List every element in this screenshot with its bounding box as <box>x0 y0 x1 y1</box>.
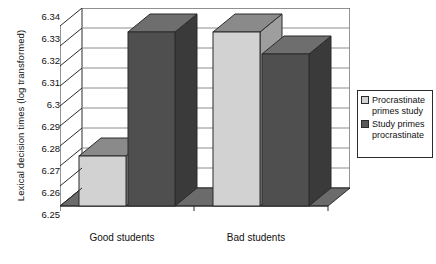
legend-label-line2: procrastinate <box>372 130 424 140</box>
legend: Procrastinate primes study Study primes … <box>357 90 433 158</box>
plot-area <box>60 8 350 220</box>
legend-label-line1: Study primes <box>372 119 425 129</box>
y-tick-label: 6.33 <box>22 34 60 44</box>
plot-svg <box>60 8 350 220</box>
legend-swatch-icon <box>361 96 369 104</box>
y-tick-label: 6.26 <box>22 188 60 198</box>
y-axis-tick-labels: 6.34 6.33 6.32 6.31 6.3 6.29 6.28 6.27 6… <box>20 0 60 264</box>
y-tick-label: 6.31 <box>22 78 60 88</box>
legend-label-line1: Procrastinate <box>372 95 425 105</box>
legend-item-study-primes-procrastinate: Study primes procrastinate <box>361 119 429 140</box>
legend-label: Study primes procrastinate <box>372 119 425 140</box>
bar-good-students-series-2 <box>128 14 197 206</box>
legend-label: Procrastinate primes study <box>372 95 425 116</box>
x-category-label-good-students: Good students <box>62 232 182 243</box>
y-tick-label: 6.32 <box>22 56 60 66</box>
y-tick-label: 6.27 <box>22 166 60 176</box>
legend-swatch-icon <box>361 120 369 128</box>
bar-chart: Lexical decision times (log transformed)… <box>0 0 436 264</box>
y-tick-label: 6.29 <box>22 122 60 132</box>
x-category-label-bad-students: Bad students <box>196 232 316 243</box>
bar-bad-students-series-2 <box>262 36 331 206</box>
y-tick-label: 6.3 <box>22 100 60 110</box>
legend-item-procrastinate-primes-study: Procrastinate primes study <box>361 95 429 116</box>
y-tick-label: 6.28 <box>22 144 60 154</box>
legend-label-line2: primes study <box>372 106 423 116</box>
y-tick-label: 6.25 <box>22 210 60 220</box>
y-tick-label: 6.34 <box>22 12 60 22</box>
